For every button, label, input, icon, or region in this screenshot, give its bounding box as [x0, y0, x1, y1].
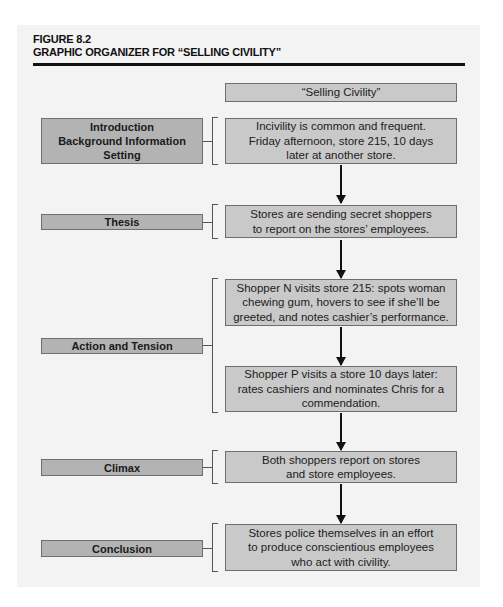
label-action-tension: Action and Tension: [41, 338, 203, 354]
content-text: Stores are sending secret shoppers to re…: [250, 207, 432, 236]
arrow-down-icon: [340, 484, 342, 523]
label-climax: Climax: [41, 459, 203, 476]
content-climax: Both shoppers report on stores and store…: [225, 451, 457, 483]
label-conclusion: Conclusion: [41, 540, 203, 557]
title-rule: [33, 63, 465, 66]
connector-line: [203, 548, 212, 549]
bracket: [212, 117, 218, 165]
content-action-shopper-p: Shopper P visits a store 10 days later: …: [225, 366, 457, 412]
content-action-shopper-n: Shopper N visits store 215: spots woman …: [225, 279, 457, 326]
bracket: [212, 523, 218, 572]
bracket: [212, 204, 218, 239]
content-text: Shopper P visits a store 10 days later: …: [238, 367, 444, 411]
connector-line: [203, 467, 212, 468]
content-thesis: Stores are sending secret shoppers to re…: [225, 205, 457, 238]
bracket: [212, 450, 218, 484]
label-text: Introduction Background Information Sett…: [58, 120, 186, 162]
label-introduction: Introduction Background Information Sett…: [41, 118, 203, 164]
arrow-down-icon: [340, 165, 342, 203]
figure-number: FIGURE 8.2: [33, 33, 91, 45]
label-text: Climax: [104, 461, 140, 475]
content-conclusion: Stores police themselves in an effort to…: [225, 524, 457, 571]
label-text: Thesis: [105, 215, 140, 229]
content-text: Both shoppers report on stores and store…: [262, 453, 420, 482]
label-text: Action and Tension: [71, 339, 172, 353]
content-text: Incivility is common and frequent. Frida…: [249, 119, 434, 163]
arrow-down-icon: [340, 327, 342, 365]
arrow-down-icon: [340, 413, 342, 450]
figure-title: GRAPHIC ORGANIZER FOR “SELLING CIVILITY”: [33, 46, 281, 58]
connector-line: [203, 222, 212, 223]
connector-line: [203, 141, 212, 142]
content-text: Stores police themselves in an effort to…: [248, 526, 434, 570]
connector-line: [203, 345, 212, 346]
diagram-title-box: “Selling Civility”: [225, 83, 457, 102]
label-thesis: Thesis: [41, 214, 203, 230]
bracket: [212, 278, 218, 413]
content-text: Shopper N visits store 215: spots woman …: [233, 281, 449, 325]
diagram-title-text: “Selling Civility”: [302, 85, 381, 100]
content-introduction: Incivility is common and frequent. Frida…: [225, 118, 457, 164]
label-text: Conclusion: [92, 542, 152, 556]
arrow-down-icon: [340, 240, 342, 278]
